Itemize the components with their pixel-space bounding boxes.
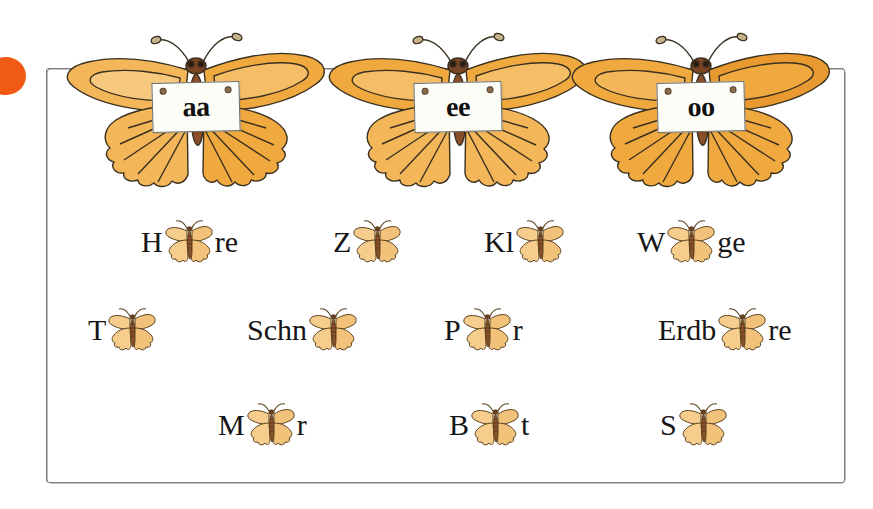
- word-prefix: Kl: [484, 227, 514, 257]
- word-item[interactable]: W ge: [637, 219, 746, 265]
- word-suffix: re: [215, 227, 238, 257]
- word-prefix: H: [141, 227, 163, 257]
- word-prefix: Schn: [247, 315, 307, 345]
- butterfly-icon: [667, 219, 715, 265]
- worksheet: aa: [0, 0, 873, 509]
- butterfly-icon: [353, 219, 401, 265]
- word-suffix: re: [768, 315, 791, 345]
- word-prefix: M: [218, 410, 245, 440]
- word-prefix: W: [637, 227, 665, 257]
- word-suffix: ge: [717, 227, 745, 257]
- word-item[interactable]: Z: [333, 219, 403, 265]
- word-prefix: B: [449, 410, 469, 440]
- butterfly-icon: [108, 307, 156, 353]
- butterfly-icon: [463, 307, 511, 353]
- word-suffix: r: [513, 315, 523, 345]
- word-item[interactable]: T: [88, 307, 158, 353]
- word-suffix: r: [297, 410, 307, 440]
- word-item[interactable]: B t: [449, 402, 529, 448]
- word-suffix: t: [521, 410, 529, 440]
- word-item[interactable]: H re: [141, 219, 238, 265]
- butterfly-icon: [247, 402, 295, 448]
- word-item[interactable]: S: [660, 402, 729, 448]
- word-item[interactable]: M r: [218, 402, 307, 448]
- butterfly-icon: [679, 402, 727, 448]
- butterfly-icon: [309, 307, 357, 353]
- word-item[interactable]: P r: [444, 307, 523, 353]
- word-item[interactable]: Erdb re: [658, 307, 792, 353]
- word-item[interactable]: Kl: [484, 219, 566, 265]
- word-list: H re Z: [0, 0, 873, 509]
- word-prefix: S: [660, 410, 677, 440]
- word-prefix: T: [88, 315, 106, 345]
- word-prefix: Erdb: [658, 315, 716, 345]
- butterfly-icon: [471, 402, 519, 448]
- butterfly-icon: [718, 307, 766, 353]
- butterfly-icon: [165, 219, 213, 265]
- word-prefix: Z: [333, 227, 351, 257]
- word-prefix: P: [444, 315, 461, 345]
- word-item[interactable]: Schn: [247, 307, 359, 353]
- butterfly-icon: [516, 219, 564, 265]
